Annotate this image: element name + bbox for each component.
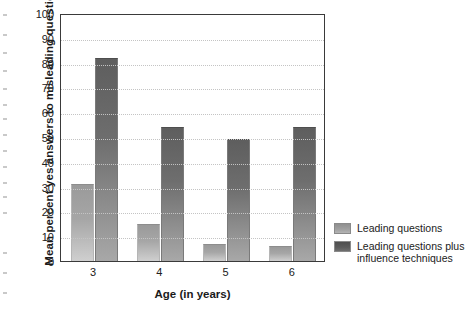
legend-label: Leading questions plus influence techniq… [357, 240, 468, 265]
gridline [61, 89, 324, 90]
gridline [61, 164, 324, 165]
plot-area [60, 14, 325, 262]
gridline [61, 238, 324, 239]
bar [95, 58, 118, 261]
x-axis-tick-label: 3 [90, 266, 96, 278]
scan-mark [3, 118, 7, 120]
scan-mark [3, 14, 7, 16]
x-axis-tick-label: 5 [223, 266, 229, 278]
scan-mark [3, 88, 7, 90]
legend-label: Leading questions [357, 222, 442, 235]
scan-mark [3, 52, 7, 54]
bar [203, 244, 226, 261]
gridline [61, 213, 324, 214]
bar [71, 184, 94, 261]
y-axis-tick-label: 80 [42, 58, 54, 70]
bar-chart-figure: Mean percent yes answers to misleading q… [0, 0, 470, 313]
scan-mark [3, 134, 7, 136]
legend-item-leading-questions: Leading questions [334, 222, 468, 235]
bars-container [61, 15, 324, 261]
gridline [61, 40, 324, 41]
y-axis-tick-label: 40 [42, 157, 54, 169]
legend-swatch-icon [334, 223, 351, 234]
bar [161, 127, 184, 261]
x-axis-title: Age (in years) [60, 288, 325, 300]
scan-mark [3, 34, 7, 36]
gridline [61, 189, 324, 190]
y-axis-tick-label: 20 [42, 206, 54, 218]
legend-swatch-icon [334, 241, 351, 252]
gridline [61, 65, 324, 66]
scan-mark [3, 70, 7, 72]
bar [227, 139, 250, 261]
x-axis-tick-label: 6 [289, 266, 295, 278]
scan-mark [3, 166, 7, 168]
scan-mark [3, 252, 7, 254]
bar [293, 127, 316, 261]
y-axis-tick-label: 70 [42, 82, 54, 94]
bar [137, 224, 160, 261]
x-axis-tick-label: 4 [156, 266, 162, 278]
scan-mark [3, 150, 7, 152]
y-axis-tick-label: 90 [42, 33, 54, 45]
y-axis-tick-label: 100 [36, 8, 54, 20]
scan-mark [3, 292, 7, 294]
gridline [61, 139, 324, 140]
scan-mark [3, 212, 7, 214]
y-axis-tick-label: 10 [42, 231, 54, 243]
scan-mark [3, 104, 7, 106]
bar [269, 246, 292, 261]
y-axis-tick-label: 60 [42, 107, 54, 119]
scan-mark [3, 182, 7, 184]
y-axis-tick-label: 30 [42, 182, 54, 194]
scan-artifacts [3, 0, 13, 313]
legend-item-leading-questions-plus-influence: Leading questions plus influence techniq… [334, 240, 468, 265]
gridline [61, 114, 324, 115]
y-axis-tick-label: 50 [42, 132, 54, 144]
scan-mark [3, 196, 7, 198]
scan-mark [3, 272, 7, 274]
y-axis-tick-label: 0 [48, 256, 54, 268]
chart-legend: Leading questions Leading questions plus… [334, 222, 468, 270]
